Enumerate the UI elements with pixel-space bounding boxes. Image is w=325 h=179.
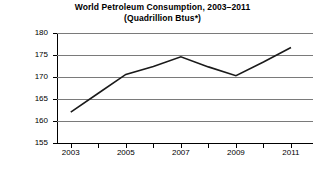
- x-tick-mark: [208, 144, 209, 148]
- x-tick-mark: [153, 144, 154, 148]
- x-tick-label: 2011: [271, 149, 311, 157]
- x-tick-label: 2007: [161, 149, 201, 157]
- gridline: [57, 143, 313, 144]
- x-tick-label: 2003: [51, 149, 91, 157]
- chart-container: World Petroleum Consumption, 2003–2011 (…: [0, 0, 325, 179]
- x-tick-mark: [98, 144, 99, 148]
- y-tick-label: 170: [14, 73, 48, 81]
- plot-area: [57, 33, 313, 143]
- x-tick-mark: [263, 144, 264, 148]
- x-tick-mark: [236, 144, 237, 148]
- chart-subtitle: (Quadrillion Btus*): [0, 13, 325, 24]
- chart-title-block: World Petroleum Consumption, 2003–2011 (…: [0, 2, 325, 24]
- y-tick-label: 180: [14, 29, 48, 37]
- y-tick-label: 155: [14, 139, 48, 147]
- x-tick-mark: [291, 144, 292, 148]
- x-tick-label: 2009: [216, 149, 256, 157]
- y-tick-label: 160: [14, 117, 48, 125]
- x-tick-mark: [71, 144, 72, 148]
- y-tick-label: 165: [14, 95, 48, 103]
- series-line-petroleum-consumption: [57, 33, 313, 143]
- x-tick-mark: [126, 144, 127, 148]
- x-tick-mark: [181, 144, 182, 148]
- chart-title: World Petroleum Consumption, 2003–2011: [0, 2, 325, 13]
- x-tick-label: 2005: [106, 149, 146, 157]
- y-tick-label: 175: [14, 51, 48, 59]
